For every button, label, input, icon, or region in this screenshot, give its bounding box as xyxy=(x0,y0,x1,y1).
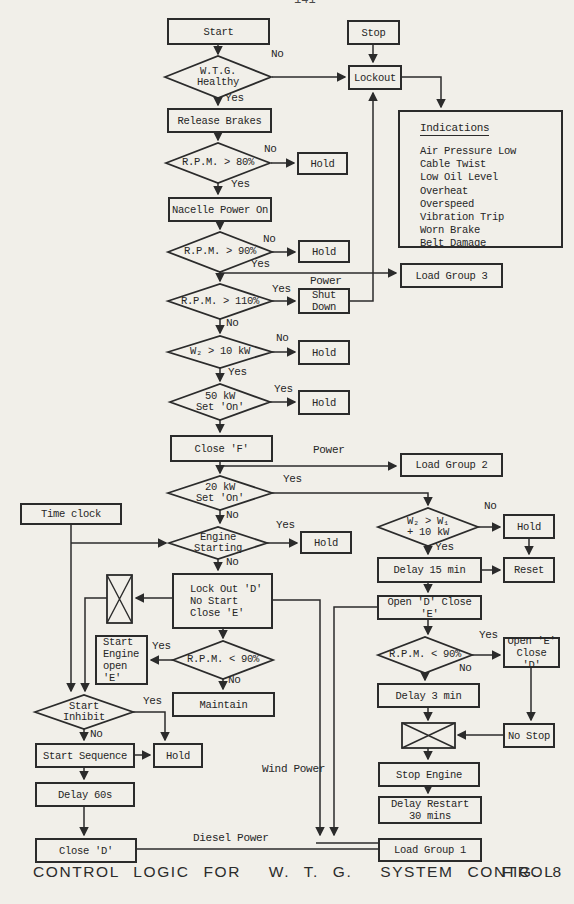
open-e-close-d-box: Open 'E' Close 'D' xyxy=(503,637,560,668)
nacelle-power-on-box: Nacelle Power On xyxy=(168,197,272,222)
no-label: No xyxy=(90,729,103,740)
yes-label: Yes xyxy=(283,474,302,485)
wind-power-label: Wind Power xyxy=(262,764,325,775)
yes-label: Yes xyxy=(276,520,295,531)
stop-box: Stop xyxy=(347,20,400,45)
yes-label: Yes xyxy=(274,384,293,395)
engine-starting-label: Engine Starting xyxy=(169,527,267,559)
yes-label: Yes xyxy=(225,93,244,104)
crossed-box-right xyxy=(402,723,455,748)
load-group-1-box: Load Group 1 xyxy=(378,838,482,862)
hold-box: Hold xyxy=(298,340,350,365)
indications-title: Indications xyxy=(420,122,489,136)
yes-label: Yes xyxy=(479,630,498,641)
rpm-gt-110-label: R.P.M. > 110% xyxy=(168,284,272,319)
w2-gt-w1-label: W₂ > W₁ + 10 kW xyxy=(378,508,478,546)
delay-60s-box: Delay 60s xyxy=(35,782,135,807)
no-label: No xyxy=(276,333,289,344)
stop-engine-box: Stop Engine xyxy=(378,762,480,787)
figure-caption: CONTROL LOGIC FOR W. T. G. SYSTEM CONTRO… xyxy=(33,863,554,881)
no-label: No xyxy=(226,510,239,521)
delay-15-min-box: Delay 15 min xyxy=(377,557,482,583)
20kw-set-on-label: 20 kW Set 'On' xyxy=(168,476,272,510)
no-label: No xyxy=(226,557,239,568)
lock-out-d-box: Lock Out 'D' No Start Close 'E' xyxy=(172,573,273,629)
close-f-box: Close 'F' xyxy=(170,435,273,462)
indication-item: Belt Damage xyxy=(420,237,561,250)
indications-panel: Indications Air Pressure Low Cable Twist… xyxy=(398,110,563,248)
indication-item: Overspeed xyxy=(420,198,561,211)
open-d-close-e-box: Open 'D' Close 'E' xyxy=(377,595,482,620)
no-label: No xyxy=(271,49,284,60)
50kw-set-on-label: 50 kW Set 'On' xyxy=(170,384,270,420)
wtg-healthy-label: W.T.G. Healthy xyxy=(165,56,271,98)
yes-label: Yes xyxy=(143,696,162,707)
hold-box: Hold xyxy=(153,743,203,768)
rpm-lt-90-right-label: R.P.M. < 90% xyxy=(378,637,472,673)
power-label: Power xyxy=(310,276,342,287)
no-label: No xyxy=(264,144,277,155)
hold-box: Hold xyxy=(300,531,352,554)
hold-box: Hold xyxy=(297,152,348,175)
indication-item: Overheat xyxy=(420,185,561,198)
indication-item: Worn Brake xyxy=(420,224,561,237)
hold-box: Hold xyxy=(503,514,555,539)
no-label: No xyxy=(263,234,276,245)
yes-label: Yes xyxy=(228,367,247,378)
delay-restart-box: Delay Restart 30 mins xyxy=(378,796,482,824)
start-engine-box: Start Engine open 'E' xyxy=(95,635,148,685)
start-inhibit-label: Start Inhibit xyxy=(35,695,133,729)
indication-item: Vibration Trip xyxy=(420,211,561,224)
start-sequence-box: Start Sequence xyxy=(35,743,135,768)
yes-label: Yes xyxy=(435,542,454,553)
power-shut-down-box: Shut Down xyxy=(298,288,350,314)
indication-item: Low Oil Level xyxy=(420,171,561,184)
yes-label: Yes xyxy=(272,284,291,295)
figure-number: FIG. 8 xyxy=(502,863,563,881)
no-label: No xyxy=(228,675,241,686)
yes-label: Yes xyxy=(251,259,270,270)
no-label: No xyxy=(484,501,497,512)
page-number-fragment: 141 xyxy=(294,0,316,7)
crossed-box-left xyxy=(107,575,132,623)
time-clock-box: Time clock xyxy=(20,503,122,525)
power-label: Power xyxy=(313,445,345,456)
yes-label: Yes xyxy=(231,179,250,190)
reset-box: Reset xyxy=(503,557,555,583)
no-label: No xyxy=(226,318,239,329)
load-group-3-box: Load Group 3 xyxy=(400,263,503,288)
indication-item: Cable Twist xyxy=(420,158,561,171)
release-brakes-box: Release Brakes xyxy=(167,108,272,133)
delay-3-min-box: Delay 3 min xyxy=(377,683,480,708)
close-d-box: Close 'D' xyxy=(35,838,137,863)
start-box: Start xyxy=(167,18,270,45)
maintain-box: Maintain xyxy=(172,692,275,717)
hold-box: Hold xyxy=(298,390,350,415)
no-stop-box: No Stop xyxy=(503,723,555,748)
flowchart-page: 141 Start Stop Lockout Release Brakes Ho… xyxy=(0,0,574,904)
w2-gt-10kw-label: W₂ > 10 kW xyxy=(168,336,272,368)
rpm-gt-80-label: R.P.M. > 80% xyxy=(166,143,270,183)
no-label: No xyxy=(459,663,472,674)
yes-label: Yes xyxy=(152,641,171,652)
hold-box: Hold xyxy=(298,240,350,263)
diesel-power-label: Diesel Power xyxy=(193,833,269,844)
rpm-lt-90-left-label: R.P.M. < 90% xyxy=(173,641,273,679)
lockout-box: Lockout xyxy=(348,65,402,90)
indication-item: Air Pressure Low xyxy=(420,145,561,158)
load-group-2-box: Load Group 2 xyxy=(400,453,503,477)
